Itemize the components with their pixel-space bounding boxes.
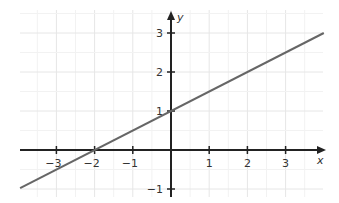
- x-tick-label: 2: [244, 157, 251, 170]
- x-tick-label: 3: [282, 157, 289, 170]
- y-tick-label: 3: [156, 27, 163, 40]
- x-tick-label: 1: [206, 157, 213, 170]
- y-tick-label: −1: [147, 183, 163, 196]
- x-axis-arrow-icon: [317, 146, 326, 154]
- x-tick-label: −2: [83, 157, 99, 170]
- x-axis-label: x: [316, 154, 324, 167]
- y-axis-label: y: [176, 11, 184, 24]
- x-tick-label: −1: [122, 157, 138, 170]
- y-tick-label: 2: [156, 66, 163, 79]
- y-axis-arrow-icon: [167, 11, 175, 20]
- line-chart: −3−2−1123−1123 x y: [0, 0, 339, 203]
